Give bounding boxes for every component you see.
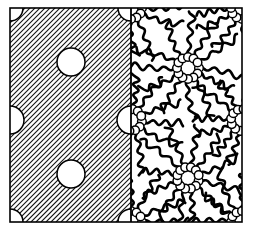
micelle-head-group [193,58,202,67]
micelle-head-group [194,171,203,180]
micelle-head-group [136,212,145,221]
figure-root [0,0,256,239]
two-phase-schematic-diagram [0,0,256,239]
micelle-head-group [137,112,146,121]
